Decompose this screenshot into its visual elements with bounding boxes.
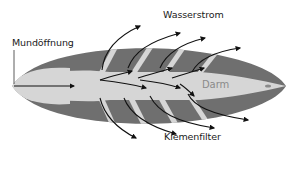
label-mouth-opening: Mundöffnung [12,37,74,48]
label-gill-filter: Kiemenfilter [164,131,221,142]
diagram-canvas: Mundöffnung Wasserstrom Darm Kiemenfilte… [0,0,294,169]
label-water-current: Wasserstrom [163,9,224,20]
label-gut: Darm [202,79,229,90]
filter-feeder-diagram [0,0,294,169]
